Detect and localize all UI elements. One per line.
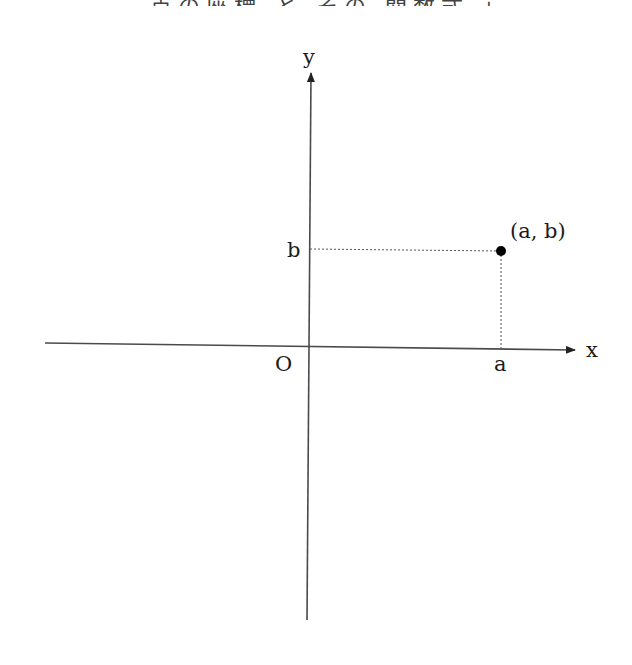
point-y-value-label: b: [287, 238, 300, 262]
point-marker: [496, 246, 506, 256]
x-axis-label: x: [586, 338, 598, 362]
point-coordinate-label: (a, b): [510, 219, 566, 243]
point-x-value-label: a: [494, 352, 507, 376]
horizontal-guide-line: [310, 249, 501, 251]
coordinate-plane: y x O b a (a, b): [0, 0, 632, 665]
y-axis-label: y: [302, 45, 315, 69]
x-axis: [45, 343, 575, 350]
origin-label: O: [275, 352, 292, 376]
